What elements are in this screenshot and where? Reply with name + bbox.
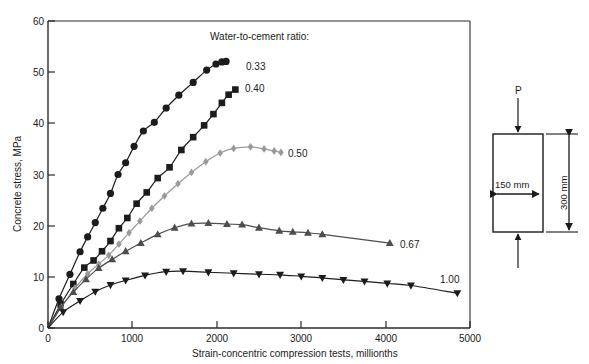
specimen-width-label: 150 mm <box>495 180 529 190</box>
chart-page: 0 10 20 30 40 50 60 0 1000 2000 3000 400… <box>0 0 589 364</box>
specimen-height-label: 300 mm <box>558 176 569 210</box>
load-label-p: P <box>515 86 522 96</box>
